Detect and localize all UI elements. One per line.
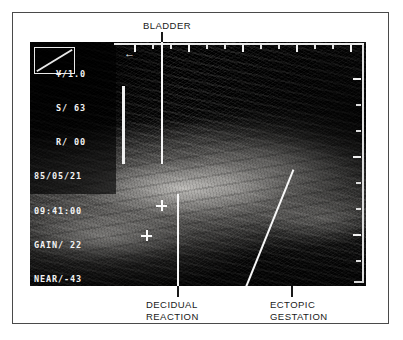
annotation-label-ectopic-gestation: ECTOPIC GESTATION — [270, 299, 328, 322]
caliper-marker — [156, 200, 167, 211]
scale-tick-top — [188, 45, 190, 52]
osd-line-time: 09:41:00 — [34, 206, 126, 217]
leader-line-ectopic-outer — [291, 286, 293, 297]
scale-tick-top — [206, 45, 208, 49]
ultrasound-figure: BLADDER DECIDUAL REACTION ECTOPIC GESTAT… — [0, 0, 403, 340]
leader-line-decidual-outer — [177, 286, 179, 297]
scale-tick-top — [314, 45, 316, 49]
leader-line-bladder-outer — [161, 32, 163, 42]
scale-tick-right — [356, 208, 361, 210]
osd-line-gain: GAIN/ 22 — [34, 240, 126, 251]
annotation-label-decidual-reaction: DECIDUAL REACTION — [146, 299, 199, 322]
osd-line-near: NEAR/-43 — [34, 274, 126, 285]
ultrasound-scan-image: ¥/1.0 S/ 63 R/ 00 85/05/21 09:41:00 GAIN… — [30, 42, 366, 286]
caliper-marker — [141, 230, 152, 241]
osd-line-date: 85/05/21 — [34, 171, 126, 182]
scale-tick-right — [356, 104, 361, 106]
osd-line-s-value: S/ 63 — [34, 103, 126, 114]
scale-tick-right — [356, 260, 361, 262]
scale-tick-top — [170, 45, 172, 49]
depth-scale-rail-right — [362, 43, 364, 283]
osd-line-frame-rate: ¥/1.0 — [34, 69, 126, 80]
scale-tick-right — [356, 182, 361, 184]
scale-tick-top — [278, 45, 280, 49]
scale-tick-top — [224, 45, 226, 49]
scale-tick-top — [350, 45, 352, 52]
depth-indicator-bar — [122, 86, 125, 164]
annotation-label-bladder: BLADDER — [143, 20, 191, 32]
leader-line-decidual-inner — [177, 194, 179, 286]
scale-tick-right — [353, 156, 361, 158]
bracket-corner-top-right — [354, 43, 364, 45]
scale-tick-right — [353, 234, 361, 236]
orientation-arrow-icon: ← — [124, 48, 138, 58]
scale-tick-right — [356, 130, 361, 132]
bracket-corner-bottom-right — [354, 281, 364, 283]
scale-tick-top — [242, 45, 244, 52]
scale-tick-right — [353, 78, 361, 80]
scale-tick-top — [332, 45, 334, 49]
machine-settings-overlay: ¥/1.0 S/ 63 R/ 00 85/05/21 09:41:00 GAIN… — [34, 46, 126, 286]
leader-line-bladder-inner — [161, 42, 163, 164]
scale-tick-top — [152, 45, 154, 49]
scale-tick-top — [260, 45, 262, 49]
osd-line-r-value: R/ 00 — [34, 137, 126, 148]
scale-tick-top — [296, 45, 298, 52]
